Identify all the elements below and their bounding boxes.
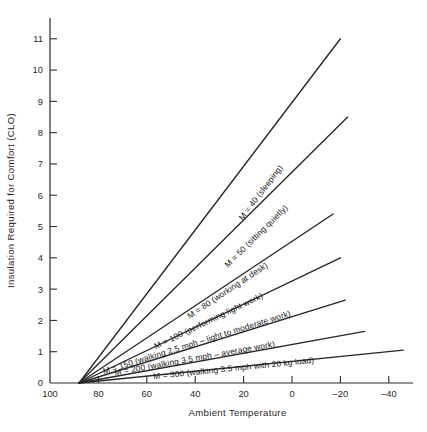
y-tick-label: 9	[38, 96, 43, 107]
y-tick-label: 6	[38, 190, 43, 201]
series-labels-group: M = 40 (sleeping)M = 50 (sitting quietly…	[102, 163, 315, 381]
x-tick-label: 60	[142, 388, 152, 399]
series-line-40	[79, 39, 340, 383]
y-tick-label: 4	[38, 252, 43, 263]
insulation-vs-temperature-chart: 01234567891011 100806040200–20–40 M = 40…	[0, 0, 427, 432]
x-tick-label: 100	[42, 388, 58, 399]
y-tick-label: 3	[38, 284, 43, 295]
y-axis-title: Insulation Required for Comfort (CLO)	[5, 113, 16, 288]
chart-canvas: 01234567891011 100806040200–20–40 M = 40…	[0, 0, 427, 432]
x-tick-label: 80	[93, 388, 103, 399]
x-tick-label: –40	[381, 388, 397, 399]
y-tick-label: 7	[38, 158, 43, 169]
y-axis-ticks	[50, 39, 57, 352]
series-label-50: M = 50 (sitting quietly)	[222, 202, 289, 269]
y-tick-label: 2	[38, 315, 43, 326]
y-tick-label: 0	[38, 377, 43, 388]
y-axis-tick-labels: 01234567891011	[33, 33, 43, 388]
x-tick-label: 40	[190, 388, 200, 399]
x-axis-title: Ambient Temperature	[188, 407, 286, 418]
y-tick-label: 11	[33, 33, 43, 44]
y-tick-label: 8	[38, 127, 43, 138]
series-line-50	[79, 117, 348, 383]
y-tick-label: 10	[33, 64, 43, 75]
x-axis-tick-labels: 100806040200–20–40	[42, 388, 396, 399]
y-tick-label: 1	[38, 346, 43, 357]
x-tick-label: –20	[333, 388, 349, 399]
x-tick-label: 0	[289, 388, 294, 399]
y-tick-label: 5	[38, 221, 43, 232]
x-tick-label: 20	[238, 388, 248, 399]
